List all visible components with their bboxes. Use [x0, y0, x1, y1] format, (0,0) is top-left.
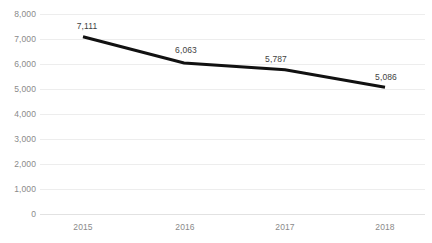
- gridlines: [40, 15, 425, 215]
- point-label-2018: 5,086: [361, 72, 411, 82]
- y-tick-5000: 5,000: [0, 84, 36, 94]
- y-tick-4000: 4,000: [0, 109, 36, 119]
- y-tick-1000: 1,000: [0, 184, 36, 194]
- x-tick-2016: 2016: [155, 222, 215, 232]
- line-chart: 8,000 7,000 6,000 5,000 4,000 3,000 2,00…: [0, 0, 432, 243]
- y-tick-8000: 8,000: [0, 9, 36, 19]
- x-tick-2015: 2015: [53, 222, 113, 232]
- point-label-2015: 7,111: [62, 21, 112, 31]
- x-tick-2017: 2017: [255, 222, 315, 232]
- chart-plot-area: [0, 0, 432, 243]
- y-tick-2000: 2,000: [0, 159, 36, 169]
- x-tick-2018: 2018: [355, 222, 415, 232]
- point-label-2017: 5,787: [251, 54, 301, 64]
- data-series-line: [83, 37, 385, 88]
- y-tick-6000: 6,000: [0, 59, 36, 69]
- point-label-2016: 6,063: [161, 45, 211, 55]
- y-tick-7000: 7,000: [0, 34, 36, 44]
- y-tick-0: 0: [0, 209, 36, 219]
- y-tick-3000: 3,000: [0, 134, 36, 144]
